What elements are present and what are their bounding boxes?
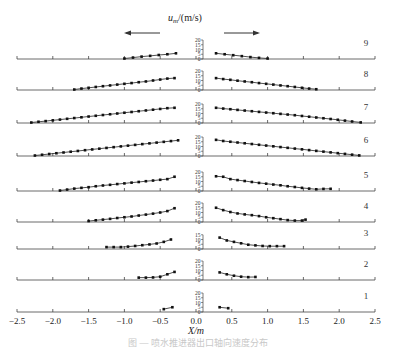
panel-label: 4 xyxy=(364,201,369,211)
data-point xyxy=(236,141,239,144)
data-point xyxy=(351,153,354,156)
data-point xyxy=(283,245,286,248)
data-point xyxy=(166,107,169,110)
data-point xyxy=(162,308,165,311)
data-point xyxy=(233,274,236,277)
data-point xyxy=(308,115,311,118)
data-point xyxy=(123,111,126,114)
data-point xyxy=(258,182,261,185)
data-point xyxy=(222,175,225,178)
data-point xyxy=(222,209,225,212)
arrow-left-icon xyxy=(124,31,160,36)
data-point xyxy=(137,110,140,113)
y-tick-label: 15 xyxy=(195,232,201,238)
data-point xyxy=(145,180,148,183)
data-point xyxy=(272,83,275,86)
data-point xyxy=(308,187,311,190)
data-point xyxy=(301,148,304,151)
data-point xyxy=(329,188,332,191)
data-point xyxy=(171,306,174,309)
data-point xyxy=(102,218,105,221)
data-point xyxy=(148,243,151,246)
data-point xyxy=(251,81,254,84)
data-point xyxy=(127,245,130,248)
data-point xyxy=(152,108,155,111)
data-point xyxy=(105,147,108,150)
data-point xyxy=(152,212,155,215)
data-point xyxy=(315,116,318,119)
x-tick-label: −2.5 xyxy=(9,316,26,326)
data-point xyxy=(116,217,119,220)
data-point xyxy=(279,218,282,221)
data-point xyxy=(315,188,318,191)
series-right-line xyxy=(220,238,285,247)
data-point xyxy=(140,55,143,58)
data-point xyxy=(130,82,133,85)
data-point xyxy=(227,307,230,310)
panel-label: 7 xyxy=(364,102,369,112)
data-point xyxy=(266,57,269,60)
panel-9: 051015209 xyxy=(17,37,375,62)
data-point xyxy=(301,115,304,118)
data-point xyxy=(55,152,58,155)
data-point xyxy=(261,245,264,248)
data-point xyxy=(137,214,140,217)
data-point xyxy=(166,77,169,80)
data-point xyxy=(222,140,225,143)
data-point xyxy=(215,206,218,209)
data-point xyxy=(145,213,148,216)
y-tick-label: 20 xyxy=(195,101,201,107)
data-point xyxy=(159,275,162,278)
data-point xyxy=(130,181,133,184)
data-point xyxy=(170,238,173,241)
data-point xyxy=(145,109,148,112)
panel-3: 0510153 xyxy=(17,228,375,252)
data-point xyxy=(265,216,268,219)
y-axis-label: um/(m/s) xyxy=(168,12,202,25)
data-point xyxy=(243,109,246,112)
data-point xyxy=(149,55,152,58)
data-point xyxy=(223,53,226,56)
arrow-right-icon xyxy=(224,31,260,36)
data-point xyxy=(84,149,87,152)
data-point xyxy=(73,187,76,190)
data-point xyxy=(358,154,361,157)
data-point xyxy=(91,148,94,151)
x-tick-label: −1.5 xyxy=(80,316,97,326)
y-tick-label: 20 xyxy=(195,37,201,43)
panel-8: 051015208 xyxy=(17,68,375,93)
panel-label: 5 xyxy=(364,170,369,180)
data-point xyxy=(102,184,105,187)
data-point xyxy=(329,118,332,121)
data-point xyxy=(286,185,289,188)
panel-1: 051015201 xyxy=(17,290,375,315)
data-point xyxy=(251,143,254,146)
data-point xyxy=(215,52,218,55)
panel-label: 1 xyxy=(364,291,369,301)
x-tick-label: −0.5 xyxy=(152,316,169,326)
data-point xyxy=(80,87,83,90)
data-point xyxy=(94,114,97,117)
data-point xyxy=(322,150,325,153)
data-point xyxy=(59,118,62,121)
data-point xyxy=(73,117,76,120)
panels: 0510152090510152080510152070510152060510… xyxy=(17,37,375,315)
data-point xyxy=(279,113,282,116)
data-point xyxy=(44,120,47,123)
data-point xyxy=(134,245,137,248)
series-right-line xyxy=(216,176,331,189)
data-point xyxy=(166,178,169,181)
panel-label: 9 xyxy=(364,38,369,48)
data-point xyxy=(265,182,268,185)
x-tick-label: 0.5 xyxy=(226,316,238,326)
data-point xyxy=(30,121,33,124)
data-point xyxy=(308,149,311,152)
data-point xyxy=(145,80,148,83)
data-point xyxy=(37,120,40,123)
data-point xyxy=(336,152,339,155)
data-point xyxy=(175,52,178,55)
data-point xyxy=(229,108,232,111)
data-point xyxy=(152,79,155,82)
data-point xyxy=(265,83,268,86)
data-point xyxy=(359,121,362,124)
